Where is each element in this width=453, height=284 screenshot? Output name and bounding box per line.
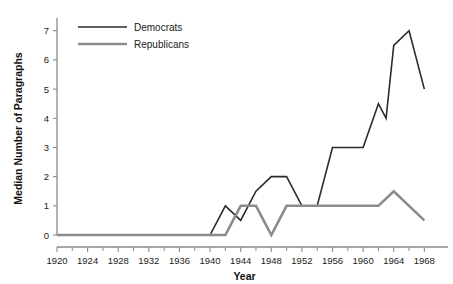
y-tick-label: 6 <box>44 54 49 65</box>
x-tick-label: 1940 <box>199 255 220 266</box>
x-tick-label: 1948 <box>261 255 282 266</box>
x-tick-label: 1924 <box>77 255 98 266</box>
x-tick-label: 1920 <box>46 255 67 266</box>
y-tick-label: 7 <box>44 25 49 36</box>
x-tick-label: 1968 <box>414 255 435 266</box>
x-tick-label: 1964 <box>383 255 404 266</box>
line-chart: 01234567 1920192419281932193619401944194… <box>0 0 453 284</box>
legend-label-democrats: Democrats <box>134 22 182 33</box>
y-tick-label: 5 <box>44 84 49 95</box>
x-tick-label: 1960 <box>353 255 374 266</box>
y-tick-label: 1 <box>44 200 49 211</box>
x-tick-label: 1932 <box>138 255 159 266</box>
chart-background <box>0 0 453 284</box>
x-tick-label: 1928 <box>108 255 129 266</box>
x-axis-title: Year <box>233 270 255 282</box>
y-tick-label: 3 <box>44 142 49 153</box>
legend-label-republicans: Republicans <box>134 39 189 50</box>
x-tick-label: 1956 <box>322 255 343 266</box>
y-tick-label: 2 <box>44 171 49 182</box>
x-tick-label: 1952 <box>291 255 312 266</box>
y-tick-label: 4 <box>44 113 49 124</box>
chart-canvas: 01234567 1920192419281932193619401944194… <box>0 0 453 284</box>
y-tick-label: 0 <box>44 230 49 241</box>
x-tick-label: 1944 <box>230 255 251 266</box>
y-axis-title: Median Number of Paragraphs <box>12 52 24 204</box>
x-tick-label: 1936 <box>169 255 190 266</box>
